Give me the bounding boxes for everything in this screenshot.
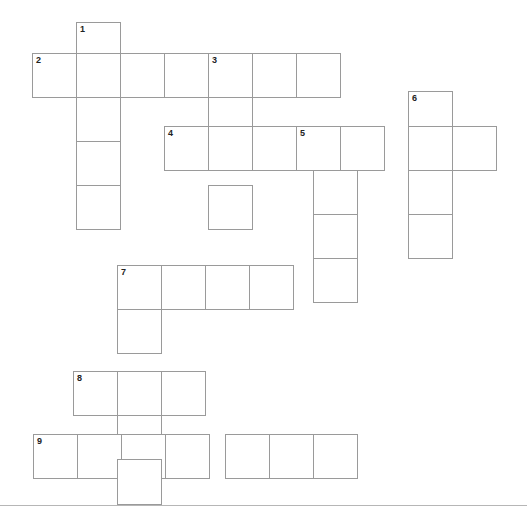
clue-number-8: 8 xyxy=(77,373,82,384)
cell-r1c3[interactable] xyxy=(164,53,209,98)
cell-r3c9[interactable] xyxy=(452,126,497,171)
crossword-grid[interactable]: 123645789 xyxy=(0,0,527,521)
cell-r4c1[interactable] xyxy=(76,185,121,230)
clue-number-1: 1 xyxy=(80,24,85,35)
cell-r10c0[interactable]: 9 xyxy=(33,434,78,479)
cell-r1c1[interactable] xyxy=(76,53,121,98)
cell-r6c4[interactable] xyxy=(205,265,250,310)
cell-r10c6[interactable] xyxy=(313,434,358,479)
cell-r1c0[interactable]: 2 xyxy=(32,53,77,98)
cell-r2c1[interactable] xyxy=(76,97,121,142)
cell-r10c3[interactable] xyxy=(165,434,210,479)
cell-r3c3[interactable]: 4 xyxy=(164,126,209,171)
crossword-puzzle: 123645789 xyxy=(0,0,527,521)
cell-r7c2[interactable] xyxy=(117,309,162,354)
cell-r6c2[interactable]: 7 xyxy=(117,265,162,310)
cell-r5c6[interactable] xyxy=(313,214,358,259)
cell-r10c4[interactable] xyxy=(225,434,270,479)
clue-number-2: 2 xyxy=(36,55,41,66)
cell-r10c5[interactable] xyxy=(269,434,314,479)
clue-number-5: 5 xyxy=(300,128,305,139)
cell-r3c1[interactable] xyxy=(76,141,121,186)
cell-r3c6[interactable]: 5 xyxy=(296,126,341,171)
cell-r4c4[interactable] xyxy=(208,185,253,230)
cell-r11c2[interactable] xyxy=(117,459,162,505)
cell-r6c3[interactable] xyxy=(161,265,206,310)
clue-number-7: 7 xyxy=(121,267,126,278)
page-baseline-rule xyxy=(0,505,527,506)
cell-r4c6[interactable] xyxy=(313,170,358,215)
cell-r4c8[interactable] xyxy=(408,170,453,215)
cell-r6c6[interactable] xyxy=(313,258,358,303)
cell-r3c7[interactable] xyxy=(340,126,385,171)
cell-r6c5[interactable] xyxy=(249,265,294,310)
cell-r1c4[interactable]: 3 xyxy=(208,53,253,98)
cell-r3c5[interactable] xyxy=(252,126,297,171)
cell-r1c5[interactable] xyxy=(252,53,297,98)
clue-number-6: 6 xyxy=(412,93,417,104)
cell-r10c1[interactable] xyxy=(77,434,122,479)
cell-r8c3[interactable] xyxy=(161,371,206,416)
cell-r1c6[interactable] xyxy=(296,53,341,98)
cell-r8c2[interactable] xyxy=(117,371,162,416)
clue-number-4: 4 xyxy=(168,128,173,139)
cell-r1c2[interactable] xyxy=(120,53,165,98)
clue-number-3: 3 xyxy=(212,55,217,66)
clue-number-9: 9 xyxy=(37,436,42,447)
cell-r3c8[interactable] xyxy=(408,126,453,171)
cell-r8c1[interactable]: 8 xyxy=(73,371,118,416)
cell-r3c4[interactable] xyxy=(208,126,253,171)
cell-r5c8[interactable] xyxy=(408,214,453,259)
